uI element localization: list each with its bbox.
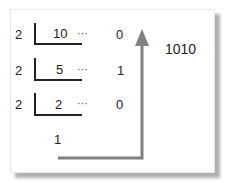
read-direction-arrow-icon bbox=[0, 0, 230, 183]
